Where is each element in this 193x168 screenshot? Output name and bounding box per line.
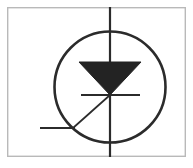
diagonal-lead [73, 95, 110, 128]
photodiode-schematic-symbol: Photodiode schematic symbol [0, 0, 193, 168]
diode-triangle [79, 62, 141, 95]
diagram-canvas: Photodiode schematic symbol [0, 0, 193, 168]
frame-border [8, 8, 186, 157]
